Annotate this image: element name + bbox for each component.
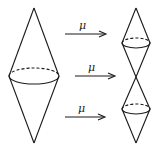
diagram-canvas: μ μ μ xyxy=(0,0,158,158)
arrow-bottom-label: μ xyxy=(78,102,85,115)
diagram-svg: μ μ μ xyxy=(0,0,158,158)
left-cone-upper-right-edge xyxy=(34,8,59,76)
right-lower-top-left-edge xyxy=(122,77,136,109)
right-upper-top-left-edge xyxy=(122,8,136,43)
arrow-middle-label: μ xyxy=(88,61,95,74)
left-cone-lower-left-edge xyxy=(9,76,34,143)
arrow-top-label: μ xyxy=(79,19,86,32)
left-cone-upper-left-edge xyxy=(9,8,34,76)
left-ellipse-front xyxy=(9,76,59,84)
right-upper-ellipse-back-dashed xyxy=(122,38,150,43)
left-cone-lower-right-edge xyxy=(34,76,59,143)
right-lower-ellipse-back-dashed xyxy=(122,104,150,109)
right-upper-ellipse-front xyxy=(122,43,150,48)
left-double-cone xyxy=(9,8,59,143)
right-lower-ellipse-front xyxy=(122,109,150,114)
left-ellipse-back-dashed xyxy=(9,68,59,76)
right-stacked-cones xyxy=(122,8,150,143)
